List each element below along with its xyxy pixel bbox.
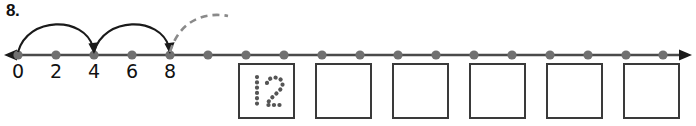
jump-arc-4-to-8 — [94, 24, 169, 52]
axis-label-4: 4 — [79, 62, 109, 81]
worksheet-problem-8: 8. — [0, 0, 696, 126]
answer-box-1[interactable]: 12 — [238, 63, 295, 119]
answer-box-3[interactable] — [392, 63, 449, 119]
axis-label-6: 6 — [117, 62, 147, 81]
answer-box-row: 12 — [238, 63, 680, 119]
jump-arc-8-to-12-dashed — [170, 15, 228, 52]
answer-box-5[interactable] — [546, 63, 603, 119]
answer-box-6[interactable] — [623, 63, 680, 119]
axis-label-0: 0 — [3, 62, 33, 81]
axis-label-2: 2 — [41, 62, 71, 81]
jump-arc-0-to-4 — [18, 24, 93, 52]
right-arrowhead-icon — [679, 50, 692, 61]
answer-box-4[interactable] — [469, 63, 526, 119]
axis-label-8: 8 — [155, 62, 185, 81]
answer-box-2[interactable] — [315, 63, 372, 119]
traced-number-12 — [240, 69, 297, 113]
